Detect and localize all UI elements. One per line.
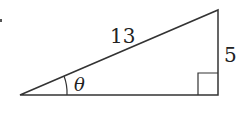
hypotenuse-label: 13	[110, 24, 135, 48]
angle-theta-label: θ	[74, 74, 85, 95]
opposite-side-label: 5	[224, 43, 237, 67]
right-triangle-diagram: 13 5 θ	[0, 0, 247, 119]
angle-arc	[64, 76, 67, 95]
triangle-outline	[20, 10, 218, 95]
stray-mark	[0, 19, 2, 22]
right-angle-marker	[198, 73, 218, 95]
